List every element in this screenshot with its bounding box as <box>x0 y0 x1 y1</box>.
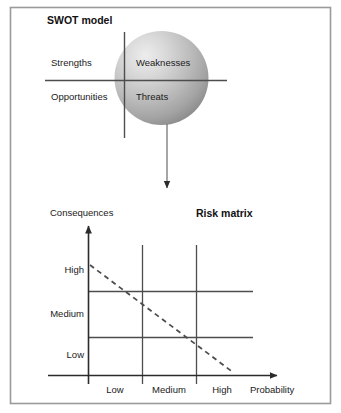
x-tick-high: High <box>212 384 232 395</box>
y-tick-low: Low <box>67 349 85 360</box>
risk-matrix-y-axis-title: Consequences <box>50 207 114 218</box>
risk-matrix-x-axis-title: Probability <box>250 384 295 395</box>
swot-quadrant-threats: Threats <box>136 91 168 102</box>
risk-matrix-title: Risk matrix <box>196 207 253 219</box>
x-tick-medium: Medium <box>152 384 186 395</box>
swot-risk-matrix-diagram: SWOT model Strengths Weaknesses Opportun… <box>0 0 341 413</box>
x-tick-low: Low <box>106 384 124 395</box>
swot-title: SWOT model <box>47 14 112 26</box>
y-tick-medium: Medium <box>50 308 84 319</box>
y-tick-high: High <box>64 264 84 275</box>
gradient-sphere <box>115 31 209 125</box>
iso-risk-dashed-line <box>90 265 234 373</box>
swot-quadrant-strengths: Strengths <box>51 57 92 68</box>
figure-canvas: SWOT model Strengths Weaknesses Opportun… <box>0 0 341 413</box>
swot-quadrant-weaknesses: Weaknesses <box>136 57 190 68</box>
swot-quadrant-opportunities: Opportunities <box>51 91 108 102</box>
